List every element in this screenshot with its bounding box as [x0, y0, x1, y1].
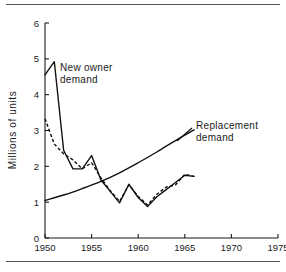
annotation-new-owner-demand-line2: demand	[60, 74, 98, 85]
annotation-replacement-leader-line	[177, 128, 192, 141]
y-tick-label: 3	[34, 125, 39, 136]
series-new-owner-demand-estimated	[45, 119, 194, 205]
chart-figure: 0123456 195019551960196519701975 Million…	[0, 0, 286, 272]
annotation-new-owner-demand-line1: New owner	[60, 62, 113, 73]
annotation-replacement-demand-line2: demand	[196, 132, 234, 143]
x-tick-label: 1970	[221, 242, 242, 253]
y-tick-label: 6	[34, 18, 39, 29]
y-tick-label: 4	[34, 89, 39, 100]
y-axis-ticks: 0123456	[34, 18, 49, 244]
x-axis-ticks: 195019551960196519701975	[34, 234, 286, 253]
x-tick-label: 1965	[174, 242, 195, 253]
x-tick-label: 1950	[34, 242, 55, 253]
annotation-replacement-demand-line1: Replacement	[196, 120, 258, 131]
x-tick-label: 1960	[128, 242, 149, 253]
y-axis-title: Millions of units	[7, 91, 18, 170]
x-tick-label: 1955	[81, 242, 102, 253]
y-tick-label: 1	[34, 197, 39, 208]
chart-plot-area: 0123456 195019551960196519701975 Million…	[0, 0, 286, 272]
series-replacement-demand	[45, 130, 194, 201]
x-tick-label: 1975	[267, 242, 286, 253]
y-tick-label: 2	[34, 161, 39, 172]
y-tick-label: 5	[34, 53, 39, 64]
